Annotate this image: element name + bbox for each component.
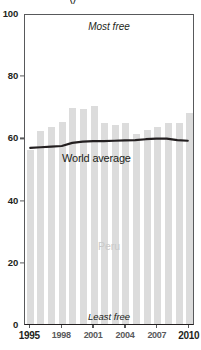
world-average-series-label: World average — [62, 152, 131, 164]
y-tick-label-100: 100 — [3, 9, 18, 19]
bar-1997 — [48, 127, 55, 324]
bar-2007 — [154, 127, 161, 324]
x-axis: 199519982001200420072010 — [0, 325, 201, 350]
least-free-label: Least free — [88, 311, 130, 322]
y-axis: 100806040200 — [0, 0, 24, 350]
bar-2000 — [80, 109, 87, 324]
x-tick-label-2001: 2001 — [84, 330, 103, 340]
x-tick-mark-1998 — [61, 325, 62, 328]
bar-2001 — [91, 106, 98, 324]
bar-2006 — [144, 130, 151, 324]
most-free-label: Most free — [88, 21, 130, 32]
bar-series-peru — [25, 15, 193, 324]
x-tick-label-1995: 1995 — [19, 330, 40, 341]
cropped-title-glyph: y — [70, 0, 80, 4]
x-tick-mark-2004 — [124, 325, 125, 328]
x-tick-label-1998: 1998 — [52, 330, 71, 340]
x-tick-label-2007: 2007 — [147, 330, 166, 340]
bar-2009 — [176, 123, 183, 324]
x-tick-label-2004: 2004 — [116, 330, 135, 340]
y-tick-label-40: 40 — [8, 196, 18, 206]
peru-series-label: Peru — [98, 240, 120, 252]
x-tick-mark-1995 — [29, 325, 30, 328]
y-tick-label-20: 20 — [8, 258, 18, 268]
x-tick-mark-2001 — [92, 325, 93, 328]
bar-2008 — [165, 123, 172, 324]
bar-2005 — [133, 134, 140, 324]
plot-area: Most free Least free Peru — [24, 14, 194, 325]
x-tick-mark-2007 — [156, 325, 157, 328]
y-tick-label-80: 80 — [8, 71, 18, 81]
x-tick-mark-2010 — [188, 325, 189, 328]
bar-2010 — [186, 113, 193, 324]
x-tick-label-2010: 2010 — [178, 330, 199, 341]
bar-1999 — [69, 108, 76, 324]
bar-1995 — [27, 150, 34, 324]
economic-freedom-chart: y 100806040200 Most free Least free Peru… — [0, 0, 201, 350]
y-tick-label-60: 60 — [8, 134, 18, 144]
bar-1996 — [37, 131, 44, 324]
